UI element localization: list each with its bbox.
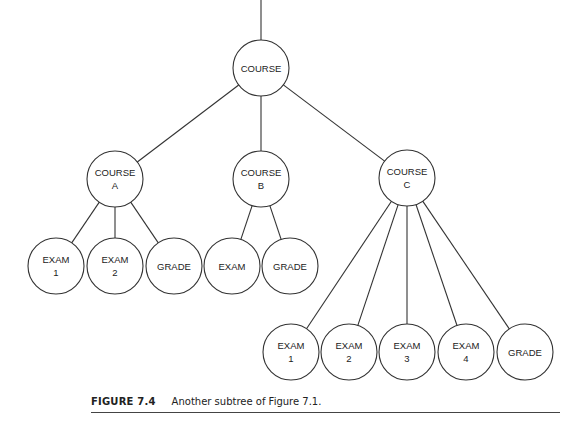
node-course: COURSE bbox=[233, 40, 289, 96]
node-label: 2 bbox=[346, 353, 351, 364]
node-circle bbox=[379, 324, 435, 380]
node-label: 1 bbox=[53, 267, 58, 278]
node-label: GRADE bbox=[157, 261, 191, 272]
node-circle bbox=[438, 324, 494, 380]
node-label: COURSE bbox=[241, 63, 282, 74]
node-c-exam-4: EXAM4 bbox=[438, 324, 494, 380]
node-c-exam-1: EXAM1 bbox=[263, 324, 319, 380]
node-circle bbox=[87, 238, 143, 294]
node-b-grade: GRADE bbox=[262, 238, 318, 294]
node-label: EXAM bbox=[278, 340, 305, 351]
node-label: COURSE bbox=[387, 166, 428, 177]
node-course-a: COURSEA bbox=[87, 151, 143, 207]
node-label: B bbox=[258, 180, 264, 191]
caption-rule bbox=[91, 412, 560, 413]
node-circle bbox=[87, 151, 143, 207]
caption-text: Another subtree of Figure 7.1. bbox=[172, 396, 322, 407]
node-label: C bbox=[404, 179, 411, 190]
node-label: 1 bbox=[288, 353, 293, 364]
node-b-exam: EXAM bbox=[204, 238, 260, 294]
node-label: GRADE bbox=[273, 261, 307, 272]
edge-course-c-to-c-exam-1 bbox=[307, 201, 392, 328]
node-circle bbox=[379, 150, 435, 206]
node-label: GRADE bbox=[508, 347, 542, 358]
node-label: 4 bbox=[463, 353, 468, 364]
edge-course-c-to-c-grade bbox=[423, 201, 510, 329]
node-label: 3 bbox=[404, 353, 409, 364]
node-label: A bbox=[112, 180, 119, 191]
tree-diagram: COURSECOURSEACOURSEBCOURSECEXAM1EXAM2GRA… bbox=[0, 0, 578, 421]
node-label: COURSE bbox=[241, 167, 282, 178]
node-label: EXAM bbox=[102, 254, 129, 265]
edge-course-a-to-a-grade bbox=[131, 202, 159, 243]
node-label: EXAM bbox=[43, 254, 70, 265]
node-circle bbox=[321, 324, 377, 380]
node-circle bbox=[28, 238, 84, 294]
edge-course-c-to-c-exam-2 bbox=[358, 205, 398, 326]
node-a-grade: GRADE bbox=[146, 238, 202, 294]
node-label: COURSE bbox=[95, 167, 136, 178]
node-circle bbox=[263, 324, 319, 380]
node-circle bbox=[233, 151, 289, 207]
node-a-exam-2: EXAM2 bbox=[87, 238, 143, 294]
node-label: EXAM bbox=[336, 340, 363, 351]
nodes: COURSECOURSEACOURSEBCOURSECEXAM1EXAM2GRA… bbox=[28, 40, 553, 380]
edge-course-to-course-c bbox=[283, 85, 384, 161]
node-label: 2 bbox=[112, 267, 117, 278]
node-c-exam-3: EXAM3 bbox=[379, 324, 435, 380]
node-c-grade: GRADE bbox=[497, 324, 553, 380]
node-label: EXAM bbox=[219, 261, 246, 272]
edge-course-c-to-c-exam-4 bbox=[416, 205, 457, 326]
node-course-b: COURSEB bbox=[233, 151, 289, 207]
node-label: EXAM bbox=[394, 340, 421, 351]
edge-course-a-to-a-exam-1 bbox=[72, 202, 100, 243]
node-c-exam-2: EXAM2 bbox=[321, 324, 377, 380]
node-course-c: COURSEC bbox=[379, 150, 435, 206]
node-label: EXAM bbox=[453, 340, 480, 351]
node-a-exam-1: EXAM1 bbox=[28, 238, 84, 294]
edge-course-b-to-b-grade bbox=[270, 206, 281, 240]
caption-label: FIGURE 7.4 bbox=[91, 396, 156, 407]
edge-course-to-course-a bbox=[137, 85, 238, 162]
edge-course-b-to-b-exam bbox=[241, 206, 252, 240]
figure-caption: FIGURE 7.4Another subtree of Figure 7.1. bbox=[91, 396, 321, 407]
